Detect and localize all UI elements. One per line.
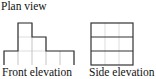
side-elevation-label: Side elevation xyxy=(89,66,154,79)
front-elevation-outline xyxy=(4,23,74,65)
front-elevation-drawing xyxy=(4,23,74,65)
side-elevation-drawing xyxy=(91,23,133,65)
front-elevation-label: Front elevation xyxy=(2,66,72,79)
side-elevation-outline xyxy=(91,23,133,65)
